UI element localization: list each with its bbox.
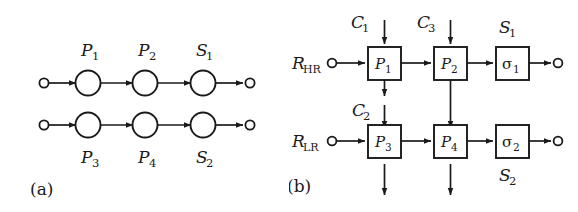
block-sigma2-label: σ <box>502 133 512 151</box>
output-bottom-endpoint <box>554 137 563 146</box>
node-p3[interactable] <box>76 113 101 138</box>
row-top-output-endpoint <box>245 78 254 87</box>
node-s2[interactable] <box>191 113 216 138</box>
node-s2-sub: 2 <box>206 156 213 170</box>
node-p2[interactable] <box>133 71 158 96</box>
input-r-hr-sub: HR <box>303 63 322 76</box>
output-top-endpoint <box>554 59 563 68</box>
block-p2-sub: 2 <box>451 63 458 75</box>
panel-b-row-bottom: R LR P 3 P 4 σ 2 S 2 <box>291 125 562 188</box>
panel-a-row-bottom: P 3 P 4 S 2 <box>39 113 254 171</box>
figure-root: P 1 P 2 S 1 P 3 P 4 S 2 (a) <box>0 0 578 212</box>
node-p1-sub: 1 <box>92 49 99 63</box>
block-sigma1-label: σ <box>502 55 512 73</box>
panel-b-caption: (b) <box>289 176 311 196</box>
node-p4-sub: 4 <box>149 156 156 170</box>
input-c2-sub: 2 <box>363 109 370 123</box>
panel-a-caption: (a) <box>30 179 53 199</box>
row-top-input-endpoint <box>39 78 48 87</box>
node-s1-sub: 1 <box>206 49 213 63</box>
panel-a-row-top: P 1 P 2 S 1 <box>39 40 254 96</box>
node-s1[interactable] <box>191 71 216 96</box>
block-p1-sub: 1 <box>385 63 392 75</box>
row-bottom-input-endpoint <box>39 120 48 129</box>
row-bottom-output-endpoint <box>245 120 254 129</box>
block-sigma2-outer-sub: 2 <box>509 174 516 188</box>
panel-b-block-diagram: R HR P 1 P 2 σ 1 S 1 C <box>289 0 578 212</box>
node-p2-sub: 2 <box>149 49 156 63</box>
block-p3-sub: 3 <box>385 141 392 153</box>
node-p3-sub: 3 <box>92 156 99 170</box>
panel-b-top-control-inputs: C 1 C 3 <box>351 12 451 44</box>
input-r-hr-endpoint <box>328 59 337 68</box>
block-sigma1-sub: 1 <box>513 63 520 75</box>
panel-b-c2-input: C 2 <box>352 100 385 128</box>
input-c3-sub: 3 <box>428 21 435 35</box>
node-p4[interactable] <box>133 113 158 138</box>
input-r-lr-sub: LR <box>303 141 319 154</box>
input-c1-sub: 1 <box>362 21 369 35</box>
block-p4-sub: 4 <box>451 141 458 153</box>
input-r-lr-endpoint <box>328 137 337 146</box>
block-sigma2-sub: 2 <box>513 141 520 153</box>
block-sigma1-outer-sub: 1 <box>509 26 516 40</box>
node-p1[interactable] <box>76 71 101 96</box>
panel-a-pipeline-diagram: P 1 P 2 S 1 P 3 P 4 S 2 (a) <box>0 0 289 212</box>
